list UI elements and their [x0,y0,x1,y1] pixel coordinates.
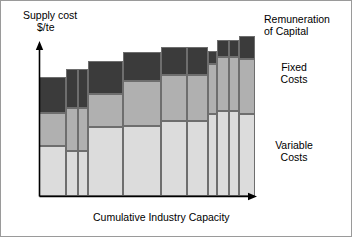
y-axis-title-line1: Supply cost [23,9,77,21]
chart-figure: Supply cost $/te Cumulative Industry Cap… [0,0,352,237]
x-axis-arrow-icon [248,193,257,200]
legend-label-variable-costs: Variable Costs [264,139,324,163]
x-axis-title: Cumulative Industry Capacity [93,211,230,223]
legend-label-fixed-costs: Fixed Costs [264,61,324,85]
y-axis-title-line2: $/te [37,21,55,33]
y-axis-arrow-icon [36,41,43,50]
legend-label-remuneration-of-capital: Remuneration of Capital [264,13,350,37]
